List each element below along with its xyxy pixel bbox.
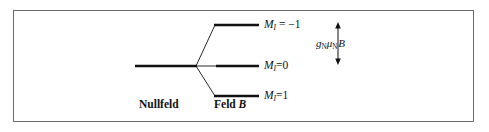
axis-label-field-symbol: B [239, 98, 247, 110]
level-label-top: MI = −1 [264, 19, 301, 31]
level-label-bottom: MI=1 [264, 90, 288, 102]
level-symbol-middle: M [264, 59, 274, 71]
level-symbol-bottom: M [264, 89, 274, 101]
level-label-middle: MI=0 [264, 60, 288, 72]
splitting-diagram [0, 0, 489, 132]
axis-label-field: Feld B [214, 99, 246, 111]
branch-line-lower [196, 66, 215, 96]
figure-root: MI = −1 MI=0 MI=1 gNμN B Nullfeld Feld B [0, 0, 489, 132]
level-equals-top: = [279, 18, 286, 30]
magnetic-field-symbol: B [338, 37, 345, 49]
level-value-bottom: 1 [283, 89, 289, 101]
axis-label-field-text: Feld [214, 98, 236, 110]
splitting-energy-label: gNμN B [316, 38, 345, 51]
branch-line-upper [196, 25, 215, 66]
level-value-top: −1 [288, 18, 300, 30]
level-subscript-top: I [274, 23, 277, 32]
axis-label-zero-field: Nullfeld [139, 99, 179, 111]
level-symbol-top: M [264, 18, 274, 30]
level-value-middle: 0 [283, 59, 289, 71]
nuclear-magneton-subscript: N [332, 43, 337, 51]
